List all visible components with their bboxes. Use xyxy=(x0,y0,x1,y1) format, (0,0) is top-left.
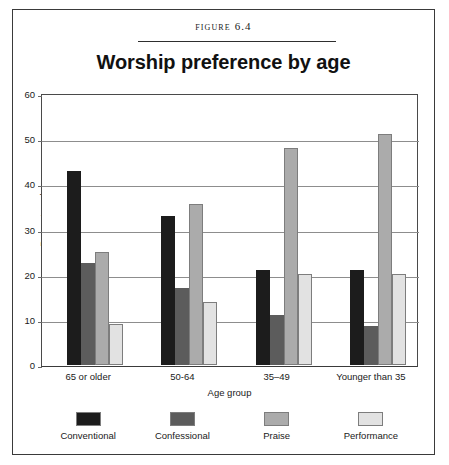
chart-title: Worship preference by age xyxy=(13,51,434,74)
y-axis-tick-label: 50 xyxy=(13,135,35,145)
x-axis-tick-label: 35–49 xyxy=(230,371,324,382)
y-axis-tick-label: 10 xyxy=(13,316,35,326)
legend-swatch xyxy=(358,412,383,426)
legend-swatch xyxy=(170,412,195,426)
y-axis-tick xyxy=(38,141,42,142)
bar xyxy=(350,270,364,365)
figure-frame: Figure 6.4 Worship preference by age Per… xyxy=(12,9,435,455)
bar-group xyxy=(161,94,217,365)
y-axis-tick xyxy=(38,277,42,278)
bar xyxy=(109,324,123,365)
legend-item: Praise xyxy=(230,412,324,441)
y-axis-tick-label: 60 xyxy=(13,90,35,100)
bar-group xyxy=(256,94,312,365)
bar xyxy=(95,252,109,365)
y-axis-tick-label: 40 xyxy=(13,180,35,190)
x-axis-tick-label: Younger than 35 xyxy=(324,371,418,382)
legend-swatch xyxy=(76,412,101,426)
y-axis-tick-label: 30 xyxy=(13,226,35,236)
bar xyxy=(284,148,298,365)
legend-item: Conventional xyxy=(41,412,135,441)
y-axis-tick-label: 0 xyxy=(13,361,35,371)
legend-label: Confessional xyxy=(135,430,229,441)
legend-item: Confessional xyxy=(135,412,229,441)
y-axis-tick xyxy=(38,322,42,323)
bar-group xyxy=(350,94,406,365)
bar xyxy=(364,326,378,364)
figure-caption: Figure 6.4 xyxy=(13,20,434,32)
bar xyxy=(67,171,81,365)
bar xyxy=(161,216,175,365)
chart-plot-region: Percentage by age group 0102030405060 Ag… xyxy=(41,94,418,367)
y-axis-tick xyxy=(38,186,42,187)
y-axis-tick xyxy=(38,96,42,97)
bar xyxy=(270,315,284,365)
bar xyxy=(203,302,217,365)
bar xyxy=(256,270,270,365)
chart-legend: ConventionalConfessionalPraisePerformanc… xyxy=(41,412,418,448)
legend-swatch xyxy=(264,412,289,426)
legend-label: Performance xyxy=(324,430,418,441)
x-axis-tick-label: 50-64 xyxy=(135,371,229,382)
legend-label: Praise xyxy=(230,430,324,441)
caption-divider xyxy=(138,41,336,42)
legend-item: Performance xyxy=(324,412,418,441)
bar xyxy=(378,134,392,364)
legend-label: Conventional xyxy=(41,430,135,441)
x-axis-tick-label: 65 or older xyxy=(41,371,135,382)
y-axis-tick xyxy=(38,367,42,368)
bar xyxy=(81,263,95,365)
y-axis-tick-label: 20 xyxy=(13,271,35,281)
bar xyxy=(175,288,189,365)
plot-area xyxy=(41,94,418,367)
x-axis-title: Age group xyxy=(41,387,418,398)
y-axis-tick-labels: 0102030405060 xyxy=(11,94,35,367)
bar xyxy=(392,274,406,364)
bar xyxy=(189,204,203,364)
bar xyxy=(298,274,312,364)
bar-group xyxy=(67,94,123,365)
y-axis-tick xyxy=(38,232,42,233)
